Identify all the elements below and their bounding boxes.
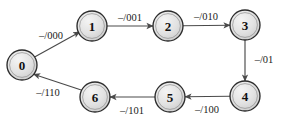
transition-label-0-to-1: –/000: [38, 30, 63, 41]
state-node-5[interactable]: 5: [155, 82, 185, 112]
transition-label-6-to-0: –/110: [35, 87, 60, 98]
state-label-3: 3: [242, 18, 249, 33]
state-node-3[interactable]: 3: [230, 10, 260, 40]
transition-label-3-to-4: –/01: [254, 54, 274, 65]
state-label-0: 0: [19, 58, 26, 73]
state-label-5: 5: [167, 90, 174, 105]
state-node-0[interactable]: 0: [7, 50, 37, 80]
transition-edge-4-to-5: [185, 96, 230, 97]
state-node-4[interactable]: 4: [230, 81, 260, 111]
transition-label-2-to-3: –/010: [193, 11, 218, 22]
state-label-1: 1: [89, 19, 96, 34]
state-node-2[interactable]: 2: [153, 11, 183, 41]
state-node-1[interactable]: 1: [77, 11, 107, 41]
state-diagram-canvas: –/000–/001–/010–/01–/100–/101–/110 01234…: [0, 0, 284, 123]
state-diagram: –/000–/001–/010–/01–/100–/101–/110 01234…: [0, 0, 284, 123]
state-label-6: 6: [92, 90, 99, 105]
state-label-2: 2: [165, 19, 172, 34]
transition-label-5-to-6: –/101: [119, 105, 144, 116]
transition-label-4-to-5: –/100: [194, 104, 219, 115]
transition-label-1-to-2: –/001: [117, 12, 142, 23]
transitions-layer: [34, 25, 245, 97]
state-label-4: 4: [242, 89, 249, 104]
transition-edge-2-to-3: [183, 25, 230, 26]
state-node-6[interactable]: 6: [80, 82, 110, 112]
